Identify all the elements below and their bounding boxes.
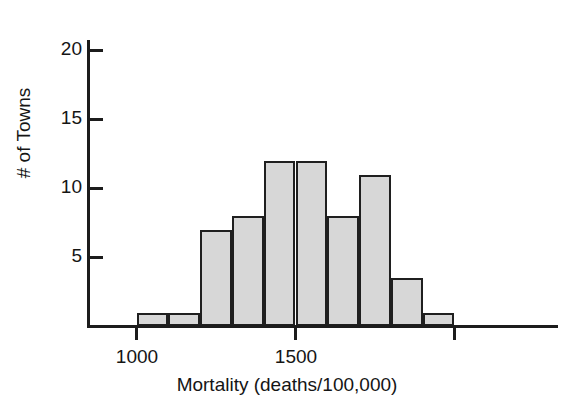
y-tick-10 — [90, 187, 103, 190]
histogram-bar — [296, 161, 328, 327]
y-tick-label-10: 10 — [36, 176, 82, 198]
x-tick-1500 — [294, 328, 297, 340]
histogram-bar — [359, 175, 391, 327]
x-tick-label-1500: 1500 — [275, 346, 317, 368]
x-tick-label-1000: 1000 — [116, 346, 158, 368]
x-tick-2000 — [453, 328, 456, 340]
y-tick-15 — [90, 118, 103, 121]
histogram-bar — [391, 278, 423, 326]
x-tick-1000 — [135, 328, 138, 340]
y-axis-line — [87, 40, 90, 328]
y-tick-label-15: 15 — [36, 107, 82, 129]
y-axis-title: # of Towns — [13, 63, 35, 203]
y-tick-20 — [90, 49, 103, 52]
x-axis-line — [87, 325, 558, 328]
histogram-bar — [264, 161, 296, 327]
y-tick-5 — [90, 256, 103, 259]
histogram-bar — [232, 216, 264, 326]
histogram-bar — [200, 230, 232, 327]
histogram-figure: 20 15 10 5 1000 1500 Mortality (deaths/1… — [0, 0, 574, 412]
y-tick-label-20: 20 — [36, 38, 82, 60]
histogram-bar — [327, 216, 359, 326]
x-axis-title: Mortality (deaths/100,000) — [87, 374, 487, 396]
y-tick-label-5: 5 — [36, 245, 82, 267]
